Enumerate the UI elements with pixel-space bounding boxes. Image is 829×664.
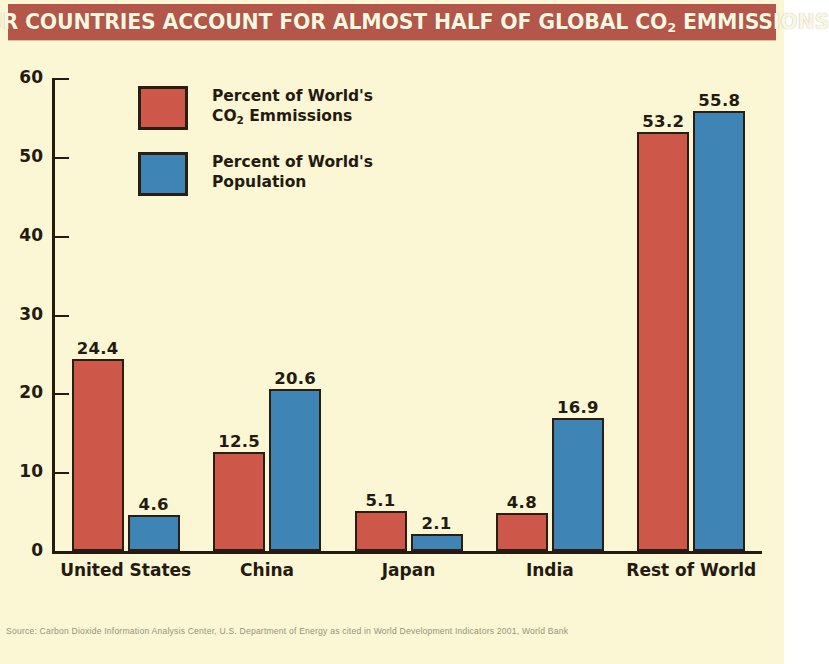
title-post: EMMISSIONS xyxy=(676,10,829,34)
legend-label-co2: Percent of World'sCO2 Emmissions xyxy=(212,86,373,127)
bar-value-label: 55.8 xyxy=(698,91,740,110)
bar-population[interactable]: 55.8 xyxy=(693,111,745,551)
x-axis-category-label: Japan xyxy=(382,560,436,580)
x-axis-category-label: India xyxy=(526,560,574,580)
y-tick-label: 40 xyxy=(19,225,43,245)
y-tick-mark xyxy=(55,157,69,159)
source-note: Source: Carbon Dioxide Information Analy… xyxy=(6,626,784,636)
legend-swatch-pop xyxy=(138,152,188,196)
y-tick-mark xyxy=(55,78,69,80)
legend-swatch-co2 xyxy=(138,86,188,130)
y-tick-label: 30 xyxy=(19,304,43,324)
bar-value-label: 4.6 xyxy=(139,495,169,514)
bar-value-label: 4.8 xyxy=(507,493,537,512)
x-axis-category-label: Rest of World xyxy=(626,560,756,580)
bar-value-label: 24.4 xyxy=(77,339,119,358)
bar-value-label: 12.5 xyxy=(218,432,260,451)
title-pre: FOUR COUNTRIES ACCOUNT FOR ALMOST HALF O… xyxy=(0,10,667,34)
legend-label-line2: Population xyxy=(212,173,373,193)
bar-co2[interactable]: 24.4 xyxy=(72,359,124,551)
legend-label-line2: CO2 Emmissions xyxy=(212,107,373,127)
bar-group-india: 4.816.9India xyxy=(496,78,604,551)
legend-item-pop: Percent of World'sPopulation xyxy=(138,152,438,196)
bar-value-label: 5.1 xyxy=(365,491,395,510)
bar-co2[interactable]: 12.5 xyxy=(213,452,265,551)
bar-value-label: 2.1 xyxy=(421,514,451,533)
bar-population[interactable]: 16.9 xyxy=(552,418,604,551)
bar-population[interactable]: 2.1 xyxy=(411,534,463,551)
legend-label-line2-pre: Population xyxy=(212,173,306,191)
title-subscript: 2 xyxy=(667,20,676,35)
legend-item-co2: Percent of World'sCO2 Emmissions xyxy=(138,86,438,130)
legend-label-line1: Percent of World's xyxy=(212,153,373,173)
bar-value-label: 53.2 xyxy=(642,112,684,131)
bar-co2[interactable]: 53.2 xyxy=(637,132,689,551)
y-tick-label: 0 xyxy=(31,540,43,560)
bar-value-label: 16.9 xyxy=(557,398,599,417)
chart-title-banner: FOUR COUNTRIES ACCOUNT FOR ALMOST HALF O… xyxy=(8,4,776,40)
x-axis-category-label: United States xyxy=(60,560,191,580)
legend-label-subscript: 2 xyxy=(237,114,244,126)
chart-legend: Percent of World'sCO2 EmmissionsPercent … xyxy=(138,86,438,218)
y-tick-mark xyxy=(55,236,69,238)
legend-label-line2-post: Emmissions xyxy=(244,107,352,125)
x-axis-line xyxy=(52,551,762,554)
bar-group-rest-of-world: 53.255.8Rest of World xyxy=(637,78,745,551)
y-tick-mark xyxy=(55,393,69,395)
bar-co2[interactable]: 4.8 xyxy=(496,513,548,551)
bar-co2[interactable]: 5.1 xyxy=(355,511,407,551)
legend-label-line1: Percent of World's xyxy=(212,87,373,107)
y-tick-label: 10 xyxy=(19,461,43,481)
legend-label-line2-pre: CO xyxy=(212,107,237,125)
bar-population[interactable]: 20.6 xyxy=(269,389,321,551)
y-tick-label: 50 xyxy=(19,146,43,166)
page-title: FOUR COUNTRIES ACCOUNT FOR ALMOST HALF O… xyxy=(0,10,829,35)
x-axis-category-label: China xyxy=(240,560,294,580)
y-tick-label: 60 xyxy=(19,67,43,87)
legend-label-pop: Percent of World'sPopulation xyxy=(212,152,373,193)
bar-population[interactable]: 4.6 xyxy=(128,515,180,551)
y-tick-label: 20 xyxy=(19,382,43,402)
bar-value-label: 20.6 xyxy=(274,369,316,388)
y-tick-mark xyxy=(55,315,69,317)
y-tick-mark xyxy=(55,472,69,474)
